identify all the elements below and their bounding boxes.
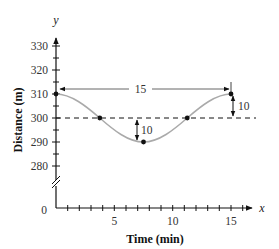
y-tick-330: 330	[31, 40, 49, 52]
amplitude-label-middle: 10	[141, 124, 153, 136]
x-tick-15: 15	[225, 215, 237, 227]
y-tick-300: 300	[31, 112, 49, 124]
x-axis: 0 5 10 15 x Time (min)	[41, 201, 265, 246]
y-axis-label: Distance (m)	[11, 88, 25, 153]
marked-points	[54, 92, 234, 145]
period-annotation: 15	[60, 82, 231, 96]
y-axis: 330 320 310 300 290 280 y Distance (m)	[11, 13, 60, 208]
amplitude-annotation-right: 10	[233, 96, 250, 116]
y-tick-280: 280	[31, 160, 49, 172]
period-label: 15	[135, 83, 147, 95]
x-axis-name: x	[258, 201, 265, 215]
x-tick-5: 5	[111, 215, 117, 227]
amplitude-label-right: 10	[238, 100, 250, 112]
x-tick-10: 10	[167, 215, 179, 227]
amplitude-annotation-middle: 10	[137, 120, 153, 140]
y-tick-310: 310	[31, 88, 49, 100]
y-axis-name: y	[52, 13, 59, 27]
sinusoid-chart: 330 320 310 300 290 280 y Distance (m)	[0, 0, 279, 249]
x-tick-0: 0	[41, 204, 47, 216]
x-axis-label: Time (min)	[126, 232, 183, 246]
y-tick-290: 290	[31, 136, 49, 148]
y-tick-320: 320	[31, 64, 49, 76]
